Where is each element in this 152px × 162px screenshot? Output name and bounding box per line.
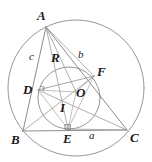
point-label-F: F xyxy=(97,65,106,78)
triangle-side-ca xyxy=(46,27,127,130)
segment-label-a: a xyxy=(89,130,95,141)
point-label-B: B xyxy=(11,133,20,146)
geometry-figure: A B C D E F O I c b a R xyxy=(0,0,152,162)
point-label-I: I xyxy=(60,101,65,114)
point-label-O: O xyxy=(76,86,85,99)
segment-label-R: R xyxy=(51,51,60,64)
radius-o-to-e xyxy=(68,92,76,129)
point-label-D: D xyxy=(23,83,32,96)
triangle-side-bc xyxy=(23,130,127,131)
line-c-to-e xyxy=(68,129,127,130)
point-label-C: C xyxy=(130,131,139,144)
point-label-A: A xyxy=(37,9,46,22)
point-label-E: E xyxy=(63,132,72,145)
segment-label-c: c xyxy=(29,51,34,62)
segment-label-b: b xyxy=(78,49,84,60)
